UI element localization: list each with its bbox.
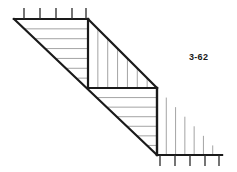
outline-layer <box>14 19 222 155</box>
figure-label: 3-62 <box>189 51 233 63</box>
figure-container: 3-62 <box>0 0 237 172</box>
load-diagram-svg <box>0 0 237 172</box>
hatch-layer <box>25 29 213 155</box>
outline-edge <box>88 19 157 88</box>
